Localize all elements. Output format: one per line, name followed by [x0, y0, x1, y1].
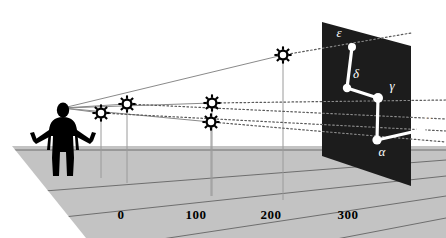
star-glyph-alpha: [92, 104, 109, 121]
axis-tick-0: 0: [118, 207, 125, 223]
diagram-canvas: [0, 0, 446, 238]
edge-gamma-alpha: [377, 98, 378, 140]
star-glyphs: [92, 46, 291, 130]
node-beta: [416, 125, 425, 134]
node-epsilon: [348, 43, 356, 51]
sight-line-to-delta: [63, 103, 212, 108]
constellation-label-gamma: γ: [389, 78, 394, 94]
axis-tick-100: 100: [186, 207, 207, 223]
star-glyph-gamma: [202, 113, 219, 130]
node-delta: [343, 84, 351, 92]
axis-tick-200: 200: [261, 207, 282, 223]
star-glyph-delta: [203, 94, 220, 111]
node-gamma: [373, 93, 383, 103]
constellation-label-beta: β: [425, 109, 431, 125]
perspective-star-distance-diagram: ε δ γ α β 0 100 200 300: [0, 0, 446, 238]
star-glyph-beta: [118, 95, 135, 112]
constellation-label-alpha: α: [379, 144, 386, 160]
constellation-label-delta: δ: [353, 66, 359, 82]
constellation-label-epsilon: ε: [336, 25, 341, 41]
star-glyph-epsilon: [274, 46, 291, 63]
sight-line-to-epsilon: [63, 55, 283, 108]
axis-tick-300: 300: [338, 207, 359, 223]
